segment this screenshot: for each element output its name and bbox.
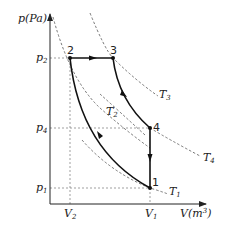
y-tick-p1: p1 <box>36 181 48 195</box>
arrow-3-4-icon <box>120 90 127 97</box>
isotherm-label-t2: T2 <box>106 105 118 119</box>
y-axis-label: p(Pa) <box>18 12 47 25</box>
y-tick-p4: p4 <box>36 121 48 135</box>
process-3-4 <box>113 58 150 128</box>
x-axis-label: V(m3) <box>180 207 211 220</box>
isotherm-label-t3: T3 <box>159 88 171 102</box>
arrow-2-3-icon <box>89 56 97 61</box>
pv-diagram: 2 3 4 1 p(Pa) p2 p4 p1 V2 V1 V(m3) T3 T2… <box>0 0 225 230</box>
isotherm-label-t1: T1 <box>169 185 181 199</box>
x-tick-v1: V1 <box>145 207 157 221</box>
point-label-2: 2 <box>67 44 74 57</box>
arrow-4-1-icon <box>148 154 153 162</box>
point-label-3: 3 <box>110 44 117 57</box>
point-4 <box>148 126 152 130</box>
process-1-2 <box>70 58 150 188</box>
isotherm-label-t4: T4 <box>203 151 215 165</box>
point-label-4: 4 <box>153 121 160 134</box>
isotherm-t3-curve <box>90 13 158 96</box>
y-tick-p2: p2 <box>36 51 48 65</box>
point-label-1: 1 <box>152 176 159 189</box>
arrow-1-2-icon <box>97 131 103 139</box>
x-tick-v2: V2 <box>64 207 77 221</box>
